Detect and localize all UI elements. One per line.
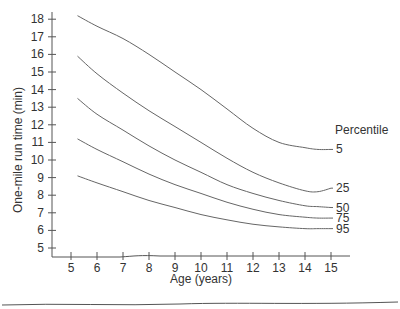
x-tick-label: 13 [272, 261, 286, 275]
percentile-curve-75 [78, 139, 334, 218]
percentile-labels: 525507595 [336, 142, 350, 235]
y-tick-label: 7 [37, 206, 44, 220]
x-tick-label: 8 [146, 261, 153, 275]
y-tick-label: 18 [31, 12, 45, 26]
x-tick-label: 15 [324, 261, 338, 275]
legend-title: Percentile [335, 123, 389, 137]
percentile-chart: 5678910111213141516171856789101112131415… [0, 0, 400, 309]
percentile-curves [78, 16, 334, 229]
bottom-rule [2, 302, 398, 305]
percentile-curve-95 [78, 176, 334, 229]
axes: 5678910111213141516171856789101112131415 [31, 12, 350, 275]
y-tick-label: 6 [37, 223, 44, 237]
percentile-label-5: 5 [336, 142, 343, 156]
y-tick-label: 10 [31, 153, 45, 167]
x-axis-label: Age (years) [170, 272, 232, 286]
x-tick-label: 6 [94, 261, 101, 275]
y-tick-label: 16 [31, 47, 45, 61]
x-tick-label: 12 [246, 261, 260, 275]
percentile-curve-25 [78, 56, 334, 192]
percentile-label-95: 95 [336, 222, 350, 236]
y-axis-label: One-mile run time (min) [11, 87, 25, 213]
y-tick-label: 5 [37, 241, 44, 255]
y-tick-label: 13 [31, 100, 45, 114]
y-tick-label: 17 [31, 30, 45, 44]
x-tick-label: 14 [298, 261, 312, 275]
y-tick-label: 12 [31, 118, 45, 132]
y-tick-label: 9 [37, 171, 44, 185]
percentile-curve-5 [78, 16, 334, 150]
percentile-curve-50 [78, 98, 334, 207]
y-tick-label: 14 [31, 83, 45, 97]
y-tick-label: 15 [31, 65, 45, 79]
y-tick-label: 11 [32, 135, 45, 149]
x-tick-label: 5 [68, 261, 75, 275]
y-tick-label: 8 [37, 188, 44, 202]
x-tick-label: 7 [120, 261, 127, 275]
percentile-label-25: 25 [336, 181, 350, 195]
